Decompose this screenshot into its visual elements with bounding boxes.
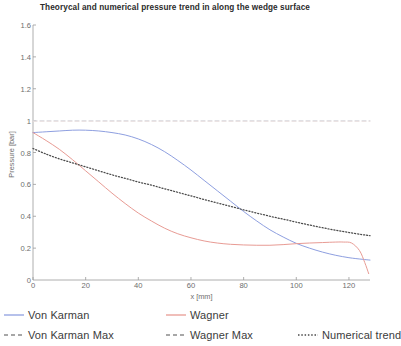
legend-label: Numerical trend <box>322 329 401 341</box>
legend-swatch-icon <box>4 330 24 340</box>
y-tick-0.2: 0.2 <box>1 244 31 253</box>
x-tick-80: 80 <box>239 281 247 290</box>
y-tick-0: 0 <box>1 276 31 285</box>
series-line-numerical-trend <box>33 149 370 236</box>
y-tick-1.2: 1.2 <box>1 84 31 93</box>
y-tick-0.4: 0.4 <box>1 212 31 221</box>
x-axis-label: x [mm] <box>33 292 370 301</box>
x-tick-100: 100 <box>290 281 303 290</box>
legend-swatch-icon <box>4 310 24 320</box>
y-tick-1: 1 <box>1 116 31 125</box>
legend-label: Von Karman <box>28 309 90 321</box>
plot-area <box>33 25 370 280</box>
legend-item-von-karman-max[interactable]: Von Karman Max <box>4 329 114 341</box>
legend-label: Wagner Max <box>190 329 253 341</box>
y-tick-0.6: 0.6 <box>1 180 31 189</box>
legend-swatch-icon <box>166 310 186 320</box>
x-tick-20: 20 <box>81 281 89 290</box>
legend-item-numerical-trend[interactable]: Numerical trend <box>298 329 401 341</box>
legend-item-wagner-max[interactable]: Wagner Max <box>166 329 253 341</box>
x-tick-60: 60 <box>187 281 195 290</box>
legend-label: Von Karman Max <box>28 329 114 341</box>
legend-label: Wagner <box>190 309 229 321</box>
legend-swatch-icon <box>166 330 186 340</box>
chart-legend: Von KarmanWagner Von Karman MaxWagner Ma… <box>0 305 392 346</box>
legend-item-wagner[interactable]: Wagner <box>166 309 229 321</box>
x-tick-40: 40 <box>134 281 142 290</box>
y-tick-1.6: 1.6 <box>1 21 31 30</box>
legend-row-2: Von Karman MaxWagner MaxNumerical trend <box>0 325 392 344</box>
y-tick-1.4: 1.4 <box>1 52 31 61</box>
legend-swatch-icon <box>298 330 318 340</box>
legend-row-1: Von KarmanWagner <box>0 305 392 324</box>
legend-item-von-karman[interactable]: Von Karman <box>4 309 90 321</box>
y-axis-label: Pressure [bar] <box>7 120 16 190</box>
chart-canvas <box>33 25 370 280</box>
y-axis-tick-labels: 00.20.40.60.811.21.41.6 <box>0 25 31 280</box>
y-tick-0.8: 0.8 <box>1 148 31 157</box>
chart-title: Theorycal and numerical pressure trend i… <box>40 2 385 13</box>
x-tick-0: 0 <box>31 281 35 290</box>
series-line-wagner <box>33 133 369 274</box>
x-tick-120: 120 <box>343 281 356 290</box>
